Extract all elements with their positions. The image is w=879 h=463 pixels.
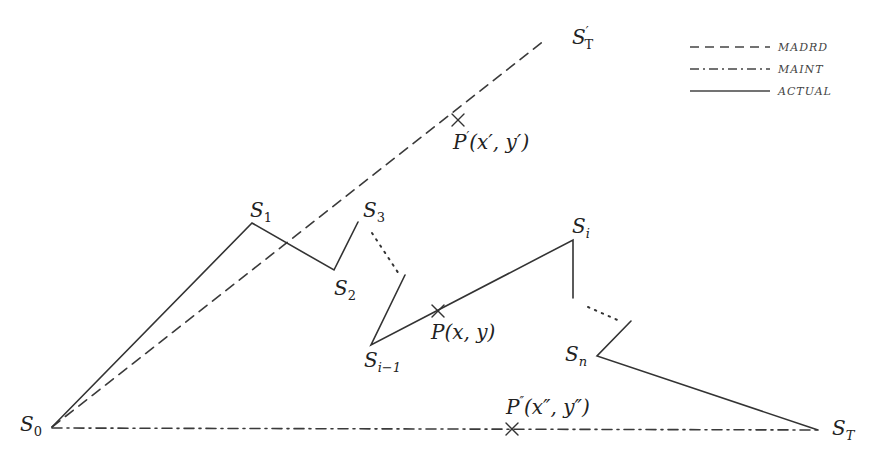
- node-label-s1: S1: [250, 200, 272, 224]
- elision-dots-1: [372, 233, 399, 274]
- node-label-s-i-minus-1: Si−1: [364, 350, 401, 374]
- point-p-prime-marker-icon: [452, 114, 464, 126]
- dash-dot-line-icon: [690, 67, 770, 71]
- point-label-p-prime: P′(x′, y′): [453, 131, 529, 152]
- actual-path-segment-3: [597, 321, 818, 430]
- legend-item-madrd: MADRD: [690, 36, 832, 58]
- node-label-s-t: ST: [832, 418, 854, 442]
- madrd-line: [52, 40, 545, 427]
- point-label-p-double-prime: P″(x″, y″): [506, 396, 590, 417]
- legend-item-maint: MAINT: [690, 58, 832, 80]
- dashed-line-icon: [690, 45, 770, 49]
- node-label-s2: S2: [334, 278, 356, 302]
- point-p-marker-icon: [432, 305, 444, 317]
- point-label-p: P(x, y): [431, 322, 495, 342]
- legend-label: ACTUAL: [778, 85, 832, 98]
- node-label-s-i: Si: [572, 216, 590, 240]
- actual-path-segment-1: [52, 222, 358, 427]
- solid-line-icon: [690, 89, 770, 93]
- node-label-s-n: Sn: [565, 344, 587, 368]
- node-label-s3: S3: [363, 200, 385, 224]
- node-label-s0: S0: [20, 414, 42, 438]
- legend-label: MADRD: [778, 41, 828, 54]
- elision-dots-2: [588, 307, 622, 322]
- maint-line: [52, 428, 818, 430]
- node-label-s-t-prime: S′T: [572, 26, 593, 51]
- legend-item-actual: ACTUAL: [690, 80, 832, 102]
- legend-label: MAINT: [778, 63, 824, 76]
- legend: MADRD MAINT ACTUAL: [690, 36, 832, 102]
